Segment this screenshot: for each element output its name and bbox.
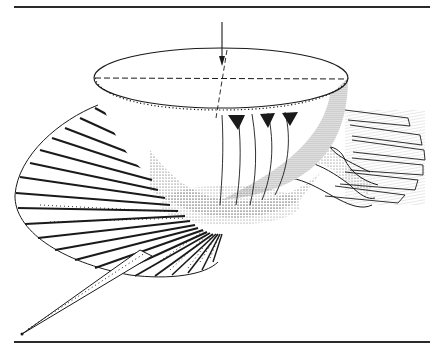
downward-arrow-icon [219,22,225,66]
long-tapering-strip [21,250,153,336]
illustration [0,0,439,350]
base-stipple [160,185,300,225]
dashed-diameter [95,78,348,79]
